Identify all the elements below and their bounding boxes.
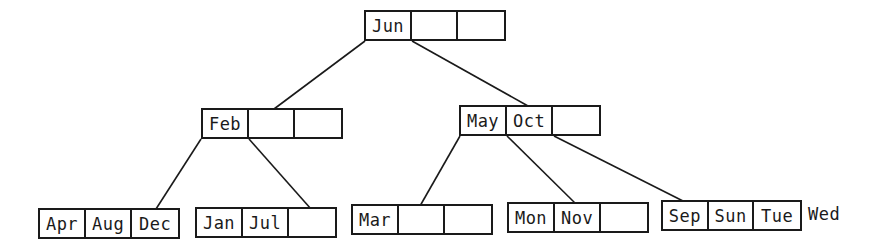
key-cell: Jan [197, 209, 243, 236]
leaf-node-mar: Mar [351, 204, 493, 235]
root-node: Jun [364, 10, 506, 41]
overflow-key-label: Wed [808, 204, 840, 224]
key-cell: Mon [509, 204, 555, 231]
leaf-node-apr-aug-dec: Apr Aug Dec [38, 208, 180, 239]
edge-may-marleaf [420, 136, 460, 206]
key-cell [295, 110, 341, 137]
key-cell [458, 12, 504, 39]
edge-feb-aprleaf [156, 139, 201, 209]
key-cell: Sep [663, 202, 709, 229]
key-cell: Aug [86, 210, 132, 237]
key-cell: Tue [754, 202, 800, 229]
leaf-node-mon-nov: Mon Nov [507, 202, 649, 233]
key-cell [553, 107, 599, 134]
edge-feb-janleaf [249, 139, 311, 209]
key-cell: Apr [40, 210, 86, 237]
key-cell [445, 206, 491, 233]
key-cell: Sun [709, 202, 755, 229]
internal-node-feb: Feb [201, 108, 343, 139]
edge-oct-monleaf [507, 136, 575, 203]
edge-oct-sepleaf [554, 136, 683, 201]
key-cell: May [461, 107, 507, 134]
key-cell [601, 204, 647, 231]
edge-jun-mayoct [412, 41, 528, 106]
key-cell: Jul [243, 209, 289, 236]
b-tree-diagram: Jun Feb May Oct Apr Aug Dec Jan Jul Mar … [0, 0, 878, 251]
key-cell: Jun [366, 12, 412, 39]
key-cell: Dec [132, 210, 178, 237]
key-cell: Nov [555, 204, 601, 231]
key-cell: Oct [507, 107, 553, 134]
leaf-node-jan-jul: Jan Jul [195, 207, 337, 238]
key-cell [249, 110, 295, 137]
key-cell [289, 209, 335, 236]
key-cell: Mar [353, 206, 399, 233]
key-cell: Feb [203, 110, 249, 137]
edge-jun-feb [274, 41, 365, 109]
leaf-node-sep-sun-tue: Sep Sun Tue [661, 200, 802, 231]
internal-node-may-oct: May Oct [459, 105, 601, 136]
key-cell [412, 12, 458, 39]
key-cell [399, 206, 445, 233]
